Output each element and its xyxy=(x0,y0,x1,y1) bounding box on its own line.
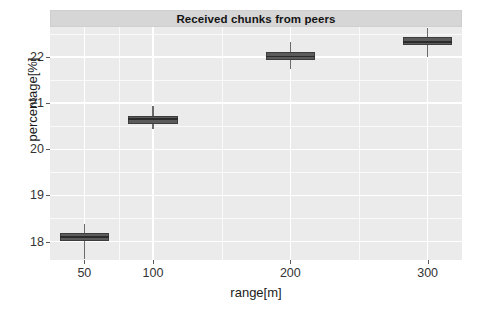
x-axis-tick-mark xyxy=(84,260,85,264)
x-axis-tick-label: 50 xyxy=(54,266,114,280)
x-axis-tick-mark xyxy=(428,260,429,264)
y-axis-tick-mark xyxy=(46,103,50,104)
x-axis-tick-label: 100 xyxy=(123,266,183,280)
y-axis-title: percentage[%] xyxy=(25,20,40,180)
boxplot-chart: Received chunks from peers 1819202122 50… xyxy=(0,0,485,313)
x-axis-ticks: 50100200300 xyxy=(0,0,485,313)
y-axis-tick-mark xyxy=(46,195,50,196)
y-axis-tick-mark xyxy=(46,57,50,58)
x-axis-title: range[m] xyxy=(50,285,462,300)
x-axis-tick-mark xyxy=(290,260,291,264)
x-axis-tick-mark xyxy=(153,260,154,264)
x-axis-tick-label: 200 xyxy=(260,266,320,280)
x-axis-tick-label: 300 xyxy=(398,266,458,280)
y-axis-tick-mark xyxy=(46,149,50,150)
y-axis-tick-mark xyxy=(46,242,50,243)
